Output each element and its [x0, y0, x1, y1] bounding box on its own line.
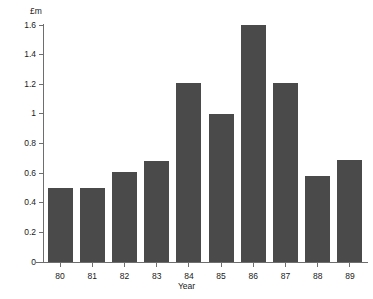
bar — [241, 25, 266, 262]
y-tick-label: 0.2 — [24, 227, 36, 237]
x-tick-label: 81 — [78, 271, 106, 281]
bar — [209, 114, 234, 262]
x-tick-label: 86 — [239, 271, 267, 281]
x-tick-mark — [285, 262, 286, 267]
x-axis-line — [36, 262, 368, 263]
x-tick-label: 80 — [46, 271, 74, 281]
x-tick-mark — [156, 262, 157, 267]
y-tick-label: 0.4 — [24, 197, 36, 207]
x-tick-label: 87 — [272, 271, 300, 281]
bar — [144, 161, 169, 262]
y-tick-label: 1 — [31, 108, 36, 118]
x-tick-mark — [60, 262, 61, 267]
x-axis-title: Year — [0, 281, 373, 291]
bar — [176, 83, 201, 262]
bar — [305, 176, 330, 262]
y-tick-label: 0.8 — [24, 138, 36, 148]
bar — [337, 160, 362, 262]
y-tick-label: 1.6 — [24, 20, 36, 30]
x-tick-label: 89 — [336, 271, 364, 281]
x-tick-mark — [92, 262, 93, 267]
bar-chart: £m 00.20.40.60.811.21.41.6 8081828384858… — [0, 0, 373, 299]
x-tick-mark — [188, 262, 189, 267]
y-tick-label: 0 — [31, 257, 36, 267]
x-tick-mark — [253, 262, 254, 267]
x-tick-label: 84 — [175, 271, 203, 281]
y-tick-label: 1.4 — [24, 49, 36, 59]
y-tick-label: 0.6 — [24, 168, 36, 178]
x-tick-label: 82 — [111, 271, 139, 281]
x-tick-mark — [317, 262, 318, 267]
x-tick-mark — [124, 262, 125, 267]
x-tick-label: 85 — [207, 271, 235, 281]
y-tick-label: 1.2 — [24, 79, 36, 89]
bar — [112, 172, 137, 262]
x-tick-mark — [349, 262, 350, 267]
x-tick-label: 88 — [304, 271, 332, 281]
plot-area — [44, 25, 366, 262]
x-tick-mark — [221, 262, 222, 267]
bar — [80, 188, 105, 262]
x-tick-label: 83 — [143, 271, 171, 281]
bar — [273, 83, 298, 262]
y-axis-unit-label: £m — [30, 6, 42, 16]
bar — [48, 188, 73, 262]
